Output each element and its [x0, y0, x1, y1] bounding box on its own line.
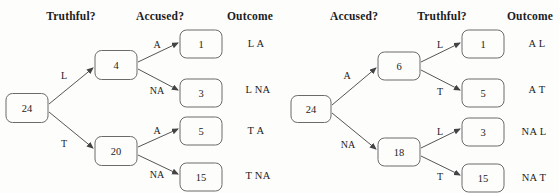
right-edge-label-upper-leaf2: T — [437, 86, 443, 97]
left-edge-label-upper-leaf1: A — [153, 39, 160, 50]
left-header-level1: Truthful? — [46, 10, 96, 22]
right-leaf-1: 1 — [462, 30, 505, 59]
left-edge-label-root-lower: T — [61, 138, 67, 149]
left-edge-label-lower-leaf3: A — [153, 125, 160, 136]
right-edge-label-root-lower: NA — [341, 139, 355, 150]
left-leaf-4: 15 — [180, 163, 223, 192]
right-edge-label-lower-leaf4: T — [437, 171, 443, 182]
left-outcome-3: T A — [248, 125, 265, 136]
right-outcome-4: NA T — [522, 172, 547, 183]
right-header-level2: Truthful? — [417, 10, 467, 22]
left-leaf-2: 3 — [180, 79, 223, 108]
left-node-upper: 4 — [95, 50, 138, 80]
left-outcome-4: T NA — [245, 170, 270, 181]
left-outcome-2: L NA — [245, 84, 270, 95]
right-outcome-3: NA L — [522, 126, 547, 137]
edge-root-to-upper — [332, 68, 376, 105]
right-node-upper: 6 — [378, 52, 421, 81]
right-outcome-1: A L — [529, 38, 546, 49]
right-node-lower: 18 — [378, 138, 421, 167]
right-leaf-4: 15 — [462, 164, 505, 193]
edge-root-to-lower — [49, 112, 93, 148]
left-node-root: 24 — [6, 93, 49, 123]
tree-diagram-figure: Truthful? Accused? Outcome 24 4 20 1 3 5… — [0, 0, 559, 193]
right-edge-label-lower-leaf3: L — [437, 126, 443, 137]
right-header-outcome: Outcome — [507, 10, 553, 22]
left-header-level2: Accused? — [136, 10, 184, 22]
right-node-root: 24 — [291, 95, 332, 123]
left-header-outcome: Outcome — [227, 10, 273, 22]
left-node-lower: 20 — [95, 136, 138, 166]
right-header-level1: Accused? — [330, 10, 378, 22]
right-leaf-2: 5 — [462, 79, 505, 108]
left-outcome-1: L A — [248, 38, 265, 49]
right-edge-label-root-upper: A — [343, 70, 350, 81]
left-edge-label-lower-leaf4: NA — [150, 169, 164, 180]
right-outcome-2: A T — [529, 84, 546, 95]
right-leaf-3: 3 — [462, 118, 505, 147]
left-leaf-1: 1 — [180, 30, 223, 59]
left-edge-label-upper-leaf2: NA — [150, 85, 164, 96]
edge-root-to-upper — [49, 68, 93, 104]
left-edge-label-root-upper: L — [61, 70, 67, 81]
left-leaf-3: 5 — [180, 117, 223, 146]
right-edge-label-upper-leaf1: L — [437, 39, 443, 50]
